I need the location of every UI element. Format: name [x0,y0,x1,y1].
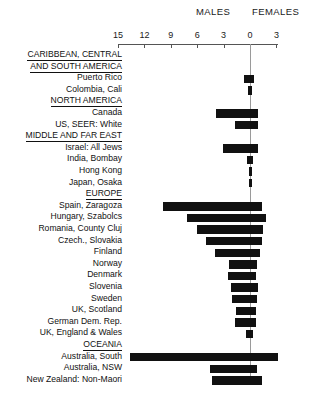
chart-rows: CARIBBEAN, CENTRALAND SOUTH AMERICAPuert… [0,0,316,395]
row-label: Israel: All Jews [65,142,122,153]
bar-females [250,353,278,361]
bar-females [250,272,256,280]
chart-container: MALES FEMALES 151296303 CARIBBEAN, CENTR… [0,0,316,395]
bar-males [187,214,250,222]
row-label: India, Bombay [67,153,122,164]
row-label: German Dem. Rep. [47,316,122,327]
row-label: Finland [94,246,122,257]
bar-males [215,249,250,257]
row-label: Sweden [91,293,122,304]
row-label: Denmark [87,269,122,280]
bar-males [212,376,250,384]
bar-males [206,237,250,245]
row-label: Romania, County Cluj [38,223,122,234]
bar-males [210,365,250,373]
bar-females [250,109,258,117]
bar-females [250,283,258,291]
row-label: UK, Scotland [72,304,122,315]
bar-males [223,144,250,152]
bar-females [250,330,253,338]
chart-row: New Zealand: Non-Maori [0,373,316,389]
bar-females [250,295,257,303]
row-label: Puerto Rico [77,72,122,83]
row-label: Hong Kong [79,165,122,176]
bar-females [250,167,252,175]
row-label: US, SEER: White [55,119,122,130]
bar-females [250,376,262,384]
bar-females [250,156,253,164]
bar-males [130,353,250,361]
row-label: Slovenia [89,281,122,292]
bar-females [250,214,266,222]
row-label: Australia, NSW [64,362,122,373]
bar-females [250,260,257,268]
bar-females [250,144,258,152]
bar-females [250,86,252,94]
bar-females [250,249,260,257]
bar-females [250,307,256,315]
row-label: Spain, Zaragoza [59,200,122,211]
row-label: Norway [93,258,122,269]
bar-females [250,365,257,373]
row-label: Australia, South [61,351,122,362]
row-label: Colombia, Cali [66,84,122,95]
bar-males [232,295,250,303]
row-label: UK, England & Wales [40,327,122,338]
bar-females [250,237,262,245]
row-label: Japan, Osaka [69,177,122,188]
bar-females [250,225,263,233]
row-label: Hungary, Szabolcs [51,211,123,222]
row-label: Czech., Slovakia [58,235,122,246]
bar-males [163,202,250,210]
bar-females [250,179,252,187]
row-label: Canada [92,107,122,118]
bar-males [236,307,250,315]
bar-males [197,225,250,233]
bar-males [229,260,250,268]
bar-females [250,121,258,129]
row-label: New Zealand: Non-Maori [26,374,122,385]
bar-males [235,318,250,326]
bar-males [235,121,250,129]
bar-males [216,109,250,117]
bar-females [250,202,262,210]
bar-males [228,272,250,280]
bar-males [231,283,250,291]
bar-females [250,318,256,326]
bar-females [250,75,254,83]
